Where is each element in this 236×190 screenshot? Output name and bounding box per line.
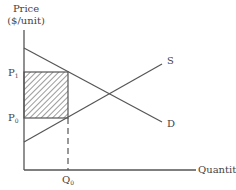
q0-label: Q0: [62, 174, 74, 186]
y-axis-label-unit: ($/unit): [7, 15, 45, 26]
supply-label: S: [167, 55, 174, 66]
x-axis-label: Quantity: [198, 164, 236, 175]
supply-demand-diagram: Price ($/unit) S D P1 P0 Q0 Quantity: [0, 0, 236, 190]
shaded-area: [24, 72, 68, 118]
p1-label: P1: [8, 67, 19, 79]
demand-label: D: [167, 118, 175, 129]
y-axis-label: Price: [13, 3, 39, 14]
p0-label: P0: [8, 112, 19, 124]
